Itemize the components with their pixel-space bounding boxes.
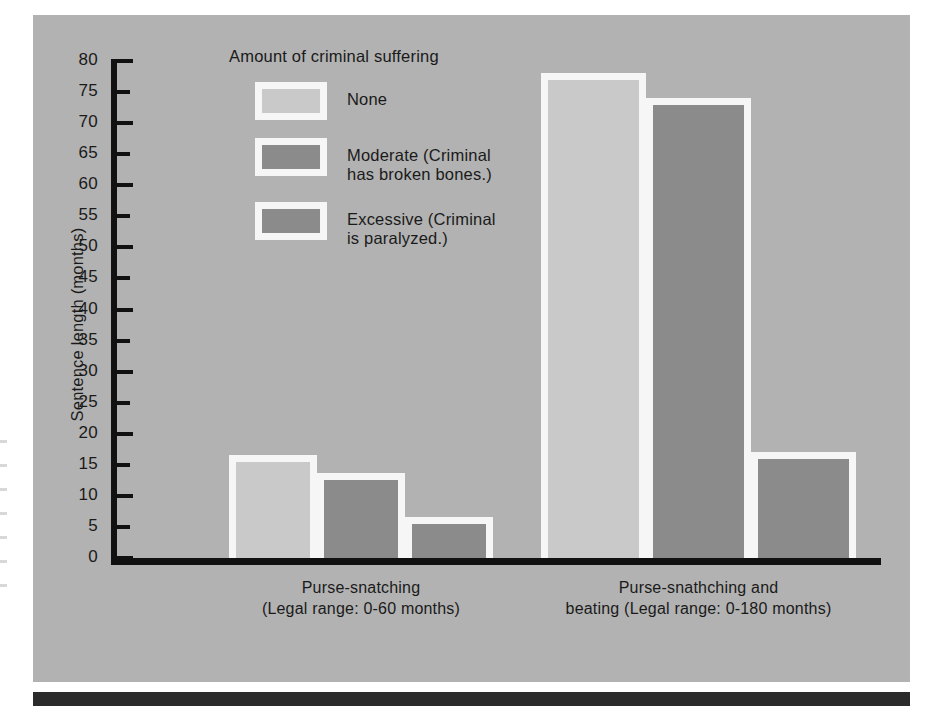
legend-label-moderate: Moderate (Criminalhas broken bones.) (347, 138, 492, 184)
y-tick-mark (117, 90, 130, 94)
x-category-label-line2: beating (Legal range: 0-180 months) (539, 598, 859, 619)
y-tick-mark (117, 152, 130, 156)
y-tick-label: 45 (46, 267, 98, 287)
legend-swatch-moderate (255, 138, 327, 176)
bottom-rule (33, 692, 910, 706)
y-tick-label: 75 (46, 81, 98, 101)
bar-g2-moderate (646, 98, 751, 559)
y-tick-mark (117, 245, 133, 249)
y-tick-mark (117, 339, 130, 343)
legend-label-line2: is paralyzed.) (347, 229, 496, 248)
chart-legend: Amount of criminal suffering NoneModerat… (229, 47, 549, 266)
y-tick-mark (117, 370, 133, 374)
y-tick-mark (117, 276, 130, 280)
bar-g2-none (541, 73, 646, 558)
y-tick-label: 50 (46, 236, 98, 256)
y-tick-label: 15 (46, 454, 98, 474)
legend-label-line2: has broken bones.) (347, 165, 492, 184)
edge-mark (0, 464, 7, 467)
legend-entry-moderate: Moderate (Criminalhas broken bones.) (229, 138, 549, 184)
legend-label-line1: None (347, 90, 387, 108)
y-tick-mark (117, 463, 130, 467)
page-edge-marks (0, 440, 12, 655)
plot-area: Sentence length (months) 807570656055504… (33, 15, 910, 682)
y-tick-label: 20 (46, 423, 98, 443)
y-tick-mark (117, 525, 130, 529)
legend-label-none: None (347, 82, 387, 109)
x-axis-line (111, 558, 881, 565)
y-tick-mark (117, 59, 133, 63)
legend-swatch-none (255, 82, 327, 120)
y-tick-mark (117, 556, 133, 560)
bar-g1-moderate (317, 473, 405, 558)
y-tick-label: 5 (46, 516, 98, 536)
x-category-label-line2: (Legal range: 0-60 months) (201, 598, 521, 619)
y-tick-label: 70 (46, 112, 98, 132)
y-tick-mark (117, 494, 133, 498)
y-tick-mark (117, 121, 133, 125)
x-category-label-2: Purse-snathching andbeating (Legal range… (539, 577, 859, 619)
legend-label-line1: Excessive (Criminal (347, 210, 496, 228)
y-tick-label: 0 (46, 547, 98, 567)
bar-g2-excessive (751, 452, 856, 558)
edge-mark (0, 584, 7, 587)
legend-label-line1: Moderate (Criminal (347, 146, 491, 164)
edge-mark (0, 536, 7, 539)
y-tick-mark (117, 308, 133, 312)
bar-g1-none (229, 455, 317, 558)
y-tick-mark (117, 432, 133, 436)
edge-mark (0, 512, 7, 515)
y-tick-label: 65 (46, 143, 98, 163)
y-tick-label: 35 (46, 330, 98, 350)
y-tick-label: 10 (46, 485, 98, 505)
legend-label-excessive: Excessive (Criminalis paralyzed.) (347, 202, 496, 248)
legend-title: Amount of criminal suffering (229, 47, 549, 66)
legend-entries: NoneModerate (Criminalhas broken bones.)… (229, 82, 549, 248)
edge-mark (0, 440, 7, 443)
y-tick-label: 60 (46, 174, 98, 194)
x-category-label-line1: Purse-snatching (302, 579, 421, 596)
legend-entry-none: None (229, 82, 549, 120)
y-tick-label: 55 (46, 205, 98, 225)
legend-entry-excessive: Excessive (Criminalis paralyzed.) (229, 202, 549, 248)
x-category-label-line1: Purse-snathching and (619, 579, 779, 596)
y-tick-label: 25 (46, 392, 98, 412)
y-tick-label: 80 (46, 50, 98, 70)
x-category-label-1: Purse-snatching(Legal range: 0-60 months… (201, 577, 521, 619)
edge-mark (0, 560, 7, 563)
edge-mark (0, 488, 7, 491)
y-tick-label: 30 (46, 361, 98, 381)
bar-chart-figure: Sentence length (months) 807570656055504… (33, 15, 910, 682)
figure-page: Sentence length (months) 807570656055504… (0, 0, 943, 728)
bar-g1-excessive (405, 517, 493, 558)
legend-swatch-excessive (255, 202, 327, 240)
y-tick-mark (117, 183, 133, 187)
y-tick-mark (117, 214, 130, 218)
y-tick-label: 40 (46, 299, 98, 319)
y-tick-mark (117, 401, 130, 405)
